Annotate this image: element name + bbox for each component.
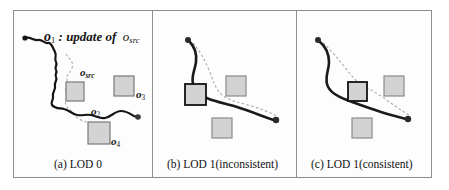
figure-container: o1 : update of osrc osrc o2 o3 o4 o′1 <s… — [0, 0, 449, 190]
square-o4 — [352, 118, 372, 138]
label-osrc-a-sub: src — [86, 72, 95, 80]
panel-c-graphics — [297, 10, 432, 178]
curve-endpoint-right — [273, 117, 279, 123]
curve-endpoint-left — [22, 35, 27, 40]
label-osrc-a: osrc — [80, 67, 94, 80]
square-o4 — [88, 122, 110, 144]
square-o3 — [384, 76, 404, 96]
curve-endpoint-right — [135, 114, 141, 120]
caption-panel-a: (a) LOD 0 — [54, 158, 102, 170]
panel-lod1-consistent: o′1 <simplify(o1)> o′src o2 o3 o4 — [297, 10, 432, 178]
title-a-second-sub: src — [129, 35, 139, 45]
curve-endpoint-left — [315, 37, 321, 43]
label-o4-a: o4 — [111, 136, 120, 149]
label-o3-a: o3 — [136, 89, 145, 102]
square-o2-highlighted — [348, 82, 367, 101]
square-o3 — [226, 76, 246, 96]
title-a-text: : update of — [59, 29, 117, 44]
label-o3-a-sub: 3 — [142, 94, 146, 102]
caption-panel-b: (b) LOD 1(inconsistent) — [167, 158, 278, 170]
caption-panel-c: (c) LOD 1(consistent) — [311, 158, 413, 170]
curve-endpoint-right — [405, 116, 411, 122]
square-o4 — [212, 118, 232, 138]
panel-b-graphics — [153, 10, 296, 178]
label-o2-a: o2 — [91, 106, 100, 119]
square-o2-highlighted — [185, 84, 206, 105]
panel-lod1-inconsistent: o′1 <simplify(o1)> o′src o2 o3 o4 — [153, 10, 296, 178]
title-a-obj-sub: 1 — [51, 35, 55, 45]
label-o2-a-sub: 2 — [97, 111, 101, 119]
panel-lod0: o1 : update of osrc osrc o2 o3 o4 — [14, 10, 152, 178]
curve-endpoint-left — [185, 37, 191, 43]
label-o4-a-sub: 4 — [117, 141, 121, 149]
panel-a-title: o1 : update of osrc — [44, 30, 140, 44]
title-a-obj: o — [44, 29, 51, 44]
square-o3 — [114, 76, 134, 96]
square-o2 — [66, 82, 84, 101]
